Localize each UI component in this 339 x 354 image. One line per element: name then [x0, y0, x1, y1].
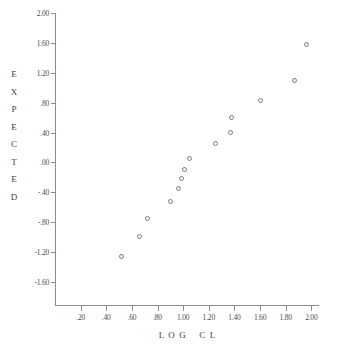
y-axis-title-letter: X: [6, 84, 22, 102]
x-tick-label: 2.00: [305, 313, 317, 322]
y-axis-title-letter: C: [6, 136, 22, 154]
x-tick-mark: [209, 306, 210, 311]
y-tick-mark: [51, 222, 56, 223]
data-point: [182, 167, 187, 172]
data-point: [187, 156, 192, 161]
x-tick-label: 1.00: [177, 313, 189, 322]
y-axis-title-letter: P: [6, 101, 22, 119]
y-tick-mark: [51, 252, 56, 253]
y-axis-line: [55, 13, 56, 306]
data-point: [292, 78, 297, 83]
y-axis-title-letter: E: [6, 171, 22, 189]
y-tick-mark: [51, 282, 56, 283]
data-point: [137, 234, 142, 239]
data-point: [229, 115, 234, 120]
x-tick-mark: [183, 306, 184, 311]
x-tick-label: .40: [102, 313, 111, 322]
x-tick-mark: [81, 306, 82, 311]
x-tick-label: .80: [153, 313, 162, 322]
x-tick-mark: [132, 306, 133, 311]
x-tick-mark: [234, 306, 235, 311]
x-axis-line: [55, 305, 319, 306]
data-point: [119, 254, 124, 259]
y-tick-mark: [51, 192, 56, 193]
data-point: [228, 130, 233, 135]
y-tick-mark: [51, 13, 56, 14]
scatter-chart: EXPECTED 2.001.601.20.80.40.00-.40-.80-1…: [0, 0, 339, 354]
y-tick-label: .80: [40, 98, 49, 107]
data-point: [176, 186, 181, 191]
y-tick-label: .40: [40, 128, 49, 137]
data-point: [258, 98, 263, 103]
x-tick-label: 1.60: [254, 313, 266, 322]
y-tick-label: -1.20: [34, 248, 49, 257]
y-tick-mark: [51, 103, 56, 104]
data-point: [168, 199, 173, 204]
y-axis-title-letter: E: [6, 66, 22, 84]
x-tick-mark: [311, 306, 312, 311]
y-tick-label: -.40: [38, 188, 49, 197]
x-tick-mark: [260, 306, 261, 311]
y-tick-mark: [51, 73, 56, 74]
y-axis-title: EXPECTED: [6, 66, 22, 206]
x-tick-mark: [158, 306, 159, 311]
y-tick-label: -1.60: [34, 278, 49, 287]
y-tick-label: .00: [40, 158, 49, 167]
x-tick-label: 1.80: [280, 313, 292, 322]
data-point: [145, 216, 150, 221]
y-tick-label: 1.20: [37, 68, 49, 77]
data-point: [304, 42, 309, 47]
y-tick-mark: [51, 162, 56, 163]
x-tick-label: 1.20: [203, 313, 215, 322]
x-tick-label: 1.40: [228, 313, 240, 322]
x-axis-title: L O G C L: [55, 330, 319, 340]
plot-area: 2.001.601.20.80.40.00-.40-.80-1.20-1.60 …: [55, 13, 319, 306]
y-tick-label: 2.00: [37, 9, 49, 18]
y-axis-title-letter: E: [6, 119, 22, 137]
data-point: [213, 141, 218, 146]
y-axis-title-letter: D: [6, 189, 22, 207]
x-tick-label: .60: [128, 313, 137, 322]
y-tick-label: 1.60: [37, 38, 49, 47]
y-tick-label: -.80: [38, 218, 49, 227]
x-tick-label: .20: [76, 313, 85, 322]
y-tick-mark: [51, 43, 56, 44]
x-tick-mark: [286, 306, 287, 311]
y-tick-mark: [51, 133, 56, 134]
y-axis-title-letter: T: [6, 154, 22, 172]
x-tick-mark: [106, 306, 107, 311]
data-point: [179, 176, 184, 181]
